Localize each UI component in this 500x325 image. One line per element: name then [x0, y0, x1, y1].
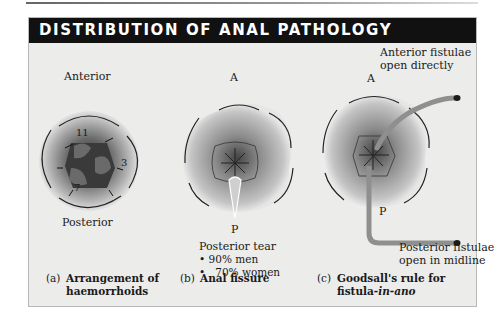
caption-b-line1: Anal fissure: [200, 272, 270, 285]
caption-c-line2: fistula-in-ano: [337, 285, 416, 298]
caption-b-letter: (b): [180, 272, 195, 285]
note-posterior-line1: Posterior fistulae: [399, 241, 494, 254]
caption-c-line1: Goodsall's rule for: [337, 272, 445, 285]
fissure-diagram: [183, 104, 293, 218]
label-posterior-b: P: [231, 223, 238, 236]
label-posterior-c: P: [379, 205, 386, 218]
caption-a-letter: (a): [46, 272, 60, 285]
position-11: 11: [76, 126, 89, 139]
label-posterior: Posterior: [62, 216, 113, 229]
note-anterior-line1: Anterior fistulae: [380, 46, 471, 59]
goodsall-diagram: [323, 95, 461, 246]
caption-a-line1: Arrangement of: [66, 272, 159, 285]
label-anterior-b: A: [230, 71, 238, 84]
bullet-men: • 90% men: [199, 253, 258, 266]
label-anterior-c: A: [367, 72, 375, 85]
caption-a-line2: haemorrhoids: [66, 285, 148, 298]
top-rule: [26, 2, 478, 4]
note-posterior-line2: open in midline: [399, 254, 485, 267]
position-7: 7: [74, 181, 80, 194]
bullet-men-text: 90% men: [209, 253, 259, 265]
position-3: 3: [121, 156, 127, 169]
label-anterior: Anterior: [64, 70, 111, 83]
caption-c-letter: (c): [317, 272, 331, 285]
caption-c-italic: in-ano: [378, 285, 415, 297]
note-anterior-line2: open directly: [380, 59, 453, 72]
caption-c-prefix: fistula-: [337, 285, 378, 297]
note-posterior-tear: Posterior tear: [199, 240, 276, 253]
figure-frame: DISTRIBUTION OF ANAL PATHOLOGY: [28, 17, 477, 307]
